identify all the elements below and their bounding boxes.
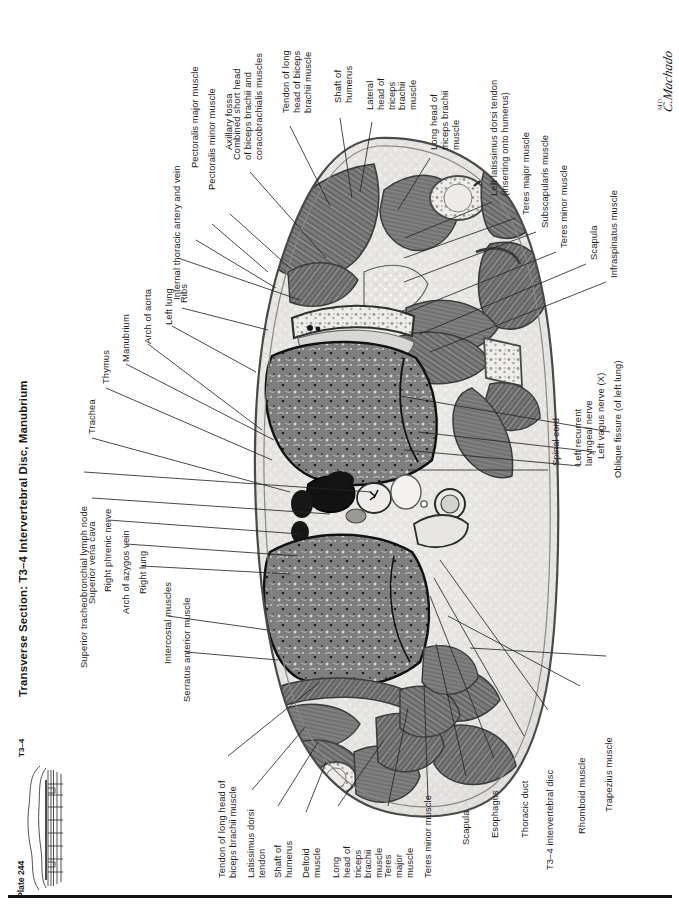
label-long-head-triceps-brachii-top: Long head of triceps brachii muscle	[429, 91, 461, 150]
label-latissimus-dorsi-tendon-bottom: Latissimus dorsi tendon	[246, 809, 268, 878]
label-shaft-of-humerus-bottom: Shaft of humerus	[273, 841, 295, 878]
label-right-phrenic-nerve: Right phrenic nerve	[103, 509, 114, 592]
label-right-lung: Right lung	[138, 551, 149, 594]
label-left-lung: Left lung	[164, 288, 175, 325]
atlas-page: Transverse Section: T3–4 Intervertebral …	[0, 0, 679, 907]
label-teres-major-muscle-bottom: Teres major muscle	[383, 848, 415, 878]
label-tendon-long-head-biceps-brachii-top: Tendon of long head of biceps brachii mu…	[281, 50, 313, 113]
label-rhomboid-muscle: Rhomboid muscle	[577, 757, 588, 834]
label-intercostal-muscles: Intercostal muscles	[163, 582, 174, 664]
label-teres-major-muscle-top: Teres major muscle	[521, 132, 532, 215]
label-left-vagus-nerve: Left vagus nerve (X)	[596, 373, 607, 459]
label-trachea: Trachea	[87, 399, 98, 434]
label-pectoralis-major-muscle: Pectoralis major muscle	[190, 66, 201, 168]
label-deltoid-muscle: Deltoid muscle	[301, 848, 323, 878]
label-serratus-anterior-muscle: Serratus anterior muscle	[182, 597, 193, 702]
label-combined-short-head-biceps-coracobrachialis: Combined short head of biceps brachii an…	[232, 53, 264, 160]
label-arch-of-azygos-vein: Arch of azygos vein	[121, 530, 132, 614]
label-scapula-top: Scapula	[589, 225, 600, 260]
label-esophagus: Esophagus	[490, 790, 501, 838]
label-tendon-long-head-biceps-brachii-bottom: Tendon of long head of biceps brachii mu…	[217, 780, 239, 878]
label-manubrium: Manubrium	[121, 314, 132, 362]
label-t3-4-intervertebral-disc: T3–4 intervertebral disc	[545, 770, 556, 870]
label-left-recurrent-laryngeal-nerve: Left recurrent laryngeal nerve	[573, 400, 595, 466]
label-subscapularis-muscle: Subscapularis muscle	[540, 135, 551, 228]
label-ribs: Ribs	[179, 284, 190, 303]
label-scapula-bottom: Scapula	[461, 810, 472, 845]
label-arch-of-aorta: Arch of aorta	[143, 289, 154, 344]
label-teres-minor-muscle-top: Teres minor muscle	[559, 165, 570, 248]
label-lateral-head-triceps-brachii: Lateral head of triceps brachii muscle	[365, 78, 419, 110]
label-superior-vena-cava: Superior vena cava	[87, 521, 98, 604]
label-thoracic-duct: Thoracic duct	[520, 780, 531, 838]
label-shaft-of-humerus-top: Shaft of humerus	[333, 66, 355, 103]
label-infraspinatus-muscle: Infraspinatus muscle	[609, 190, 620, 278]
label-left-latissimus-dorsi-tendon: Left latissimus dorsi tendon (inserting …	[489, 80, 511, 196]
label-long-head-triceps-brachii-bottom: Long head of triceps brachii muscle	[331, 846, 385, 878]
label-pectoralis-minor-muscle: Pectoralis minor muscle	[207, 88, 218, 190]
label-teres-minor-muscle-bottom: Teres minor muscle	[423, 795, 434, 878]
label-spinal-cord: Spinal cord	[551, 418, 562, 466]
label-oblique-fissure-of-left-lung: Oblique fissure (of left lung)	[613, 360, 624, 478]
label-thymus: Thymus	[101, 350, 112, 384]
label-internal-thoracic-artery-and-vein: Internal thoracic artery and vein	[172, 165, 183, 300]
label-trapezius-muscle: Trapezius muscle	[604, 737, 615, 812]
